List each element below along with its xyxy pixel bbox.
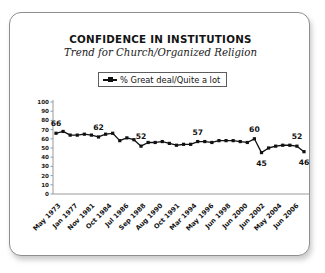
line-chart-svg: 0102030405060708090100May 1973Jan 1977No…	[10, 13, 311, 257]
data-point-marker	[154, 141, 157, 144]
data-point-marker	[189, 143, 192, 146]
data-point-marker	[90, 134, 93, 137]
data-point-label: 45	[256, 159, 267, 168]
data-point-label: 52	[136, 132, 147, 141]
data-point-marker	[196, 140, 199, 143]
data-point-marker	[232, 139, 235, 142]
y-axis-tick-label: 0	[45, 191, 49, 197]
screenshot-root: CONFIDENCE IN INSTITUTIONS Trend for Chu…	[0, 0, 325, 273]
data-point-label: 60	[249, 125, 260, 134]
data-point-marker	[281, 144, 284, 147]
data-point-marker	[182, 143, 185, 146]
data-point-label: 62	[93, 123, 104, 132]
data-point-marker	[239, 140, 242, 143]
y-axis-tick-label: 60	[41, 136, 49, 142]
data-point-marker	[288, 144, 291, 147]
data-point-marker	[260, 151, 263, 154]
y-axis-tick-label: 100	[37, 99, 49, 105]
data-point-marker	[118, 139, 121, 142]
data-point-marker	[125, 136, 128, 139]
data-point-marker	[76, 134, 79, 137]
chart-card: CONFIDENCE IN INSTITUTIONS Trend for Chu…	[9, 12, 310, 256]
data-point-marker	[210, 141, 213, 144]
data-point-label: 46	[299, 158, 310, 167]
data-point-marker	[267, 146, 270, 149]
series-line	[56, 131, 304, 152]
data-point-marker	[274, 145, 277, 148]
data-point-marker	[175, 144, 178, 147]
y-axis-tick-label: 40	[41, 154, 49, 160]
data-point-marker	[203, 140, 206, 143]
data-point-marker	[168, 142, 171, 145]
data-point-marker	[246, 141, 249, 144]
data-point-marker	[61, 130, 64, 133]
data-point-marker	[224, 139, 227, 142]
data-point-label: 66	[51, 119, 62, 128]
y-axis-tick-label: 30	[41, 163, 49, 169]
data-point-marker	[83, 133, 86, 136]
data-point-marker	[54, 132, 57, 135]
y-axis-tick-label: 50	[41, 145, 49, 151]
data-point-marker	[147, 141, 150, 144]
y-axis-tick-label: 10	[41, 182, 49, 188]
data-point-marker	[104, 133, 107, 136]
data-point-marker	[97, 135, 100, 138]
y-axis-tick-label: 70	[41, 127, 49, 133]
data-point-marker	[111, 132, 114, 135]
y-axis-tick-label: 80	[41, 117, 49, 123]
data-point-marker	[295, 145, 298, 148]
data-point-marker	[253, 137, 256, 140]
data-point-marker	[69, 134, 72, 137]
data-point-label: 52	[292, 132, 303, 141]
data-point-marker	[139, 145, 142, 148]
data-point-marker	[217, 139, 220, 142]
data-point-label: 57	[192, 128, 203, 137]
y-axis-tick-label: 20	[41, 173, 49, 179]
data-point-marker	[302, 150, 305, 153]
data-point-marker	[161, 140, 164, 143]
plot-area: 0102030405060708090100May 1973Jan 1977No…	[10, 13, 311, 257]
y-axis-tick-label: 90	[41, 108, 49, 114]
